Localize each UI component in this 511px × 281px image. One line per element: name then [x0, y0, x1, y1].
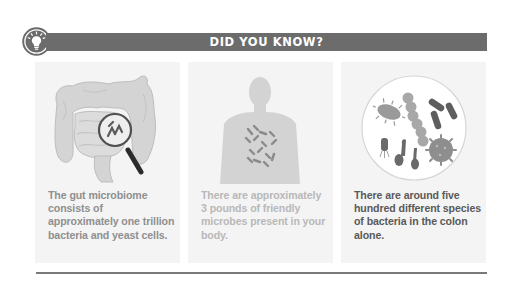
fact-card-friendly-microbes: There are approximately 3 pounds of frie…: [188, 62, 333, 263]
fact-card-colon-bacteria: There are around five hundred different …: [341, 62, 486, 263]
page-title: DID YOU KNOW?: [46, 33, 487, 51]
human-silhouette-microbes-icon: [188, 62, 333, 184]
fact-card-gut-microbiome: The gut microbiome consists of approxima…: [35, 62, 180, 263]
intestine-magnifier-icon: [35, 62, 180, 184]
bacteria-petri-icon: [341, 62, 486, 184]
fact-text: There are approximately 3 pounds of frie…: [201, 189, 329, 242]
bottom-divider: [36, 272, 487, 274]
fact-text: There are around five hundred different …: [354, 189, 482, 242]
fact-text: The gut microbiome consists of approxima…: [48, 189, 176, 242]
